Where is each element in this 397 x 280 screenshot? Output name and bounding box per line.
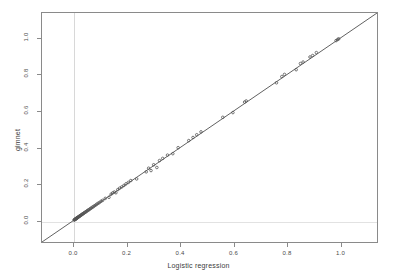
y-tick-mark xyxy=(37,74,41,75)
scatter-point xyxy=(135,178,138,181)
y-tick-mark xyxy=(37,111,41,112)
y-tick-label: 0.6 xyxy=(23,103,29,117)
scatter-point xyxy=(195,133,198,136)
x-tick-mark xyxy=(234,243,235,247)
x-tick-label: 0.8 xyxy=(283,250,292,256)
scatter-point xyxy=(156,166,159,169)
x-tick-mark xyxy=(341,243,342,247)
scatter-point xyxy=(315,51,318,54)
scatter-point xyxy=(232,111,235,114)
scatter-point xyxy=(281,75,284,78)
x-tick-label: 0.0 xyxy=(69,250,78,256)
scatter-point xyxy=(104,197,107,200)
y-tick-mark xyxy=(37,148,41,149)
scatter-point xyxy=(311,54,314,57)
x-tick-mark xyxy=(287,243,288,247)
scatter-point xyxy=(130,179,133,182)
scatter-points-layer xyxy=(42,13,377,242)
scatter-point xyxy=(275,82,278,85)
scatter-point xyxy=(200,131,203,134)
scatter-point xyxy=(127,181,130,184)
y-tick-label: 0.8 xyxy=(23,66,29,80)
x-axis-label: Logistic regression xyxy=(0,262,397,269)
y-axis-label: glmnet xyxy=(14,129,21,151)
y-tick-label: 0.4 xyxy=(23,140,29,154)
x-tick-label: 1.0 xyxy=(336,250,345,256)
scatter-point xyxy=(166,154,169,157)
y-tick-mark xyxy=(37,221,41,222)
x-tick-label: 0.4 xyxy=(176,250,185,256)
x-tick-label: 0.2 xyxy=(122,250,131,256)
y-tick-mark xyxy=(37,38,41,39)
x-tick-mark xyxy=(73,243,74,247)
chart-screenshot: 0.00.20.40.60.81.0 0.00.20.40.60.81.0 Lo… xyxy=(0,0,397,280)
scatter-point xyxy=(145,171,148,174)
plot-area xyxy=(41,12,378,243)
scatter-point xyxy=(295,68,298,71)
scatter-point xyxy=(161,157,164,160)
x-tick-mark xyxy=(180,243,181,247)
scatter-point xyxy=(299,62,302,65)
y-tick-mark xyxy=(37,184,41,185)
y-tick-label: 1.0 xyxy=(23,30,29,44)
scatter-point xyxy=(222,116,225,119)
y-tick-label: 0.2 xyxy=(23,176,29,190)
scatter-point xyxy=(108,196,111,199)
x-tick-label: 0.6 xyxy=(229,250,238,256)
scatter-point xyxy=(192,136,195,139)
scatter-point xyxy=(245,100,248,103)
y-tick-label: 0.0 xyxy=(23,213,29,227)
scatter-point xyxy=(172,152,175,155)
scatter-point xyxy=(147,167,150,170)
scatter-point xyxy=(152,163,155,166)
x-tick-mark xyxy=(127,243,128,247)
scatter-point xyxy=(177,146,180,149)
scatter-point xyxy=(309,56,312,59)
scatter-point xyxy=(187,139,190,142)
scatter-point xyxy=(302,61,305,64)
scatter-point xyxy=(283,73,286,76)
scatter-point xyxy=(101,199,104,202)
scatter-point xyxy=(158,159,161,162)
scatter-point xyxy=(150,169,153,172)
scatter-point xyxy=(115,191,118,194)
